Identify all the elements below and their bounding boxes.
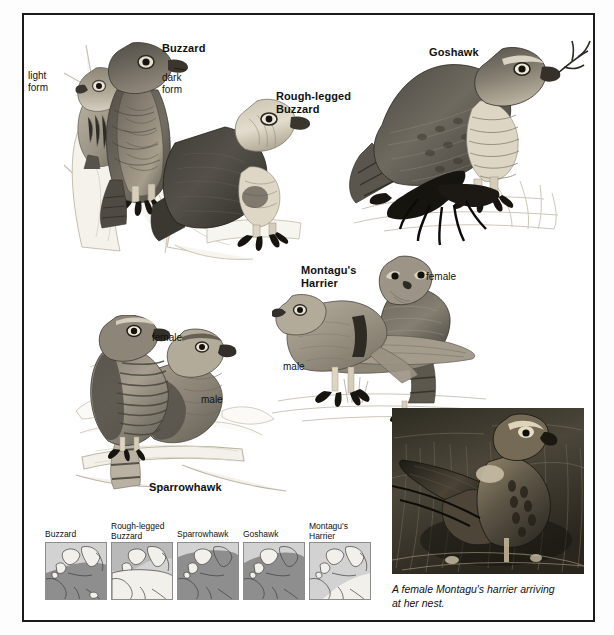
label-buzzard-title: Buzzard	[162, 42, 205, 55]
map-label-rough-legged: Rough-legged Buzzard	[111, 521, 164, 541]
label-goshawk-title: Goshawk	[429, 46, 479, 59]
label-light-form: light form	[28, 70, 48, 93]
label-harrier-male: male	[283, 361, 305, 373]
illustration-page: Buzzard light form dark form Rough-legge…	[0, 0, 614, 635]
photo-caption: A female Montagu's harrier arriving at h…	[392, 582, 587, 610]
label-dark-form: dark form	[162, 72, 182, 95]
map-label-sparrowhawk: Sparrowhawk	[177, 529, 229, 539]
label-rough-legged-title: Rough-legged Buzzard	[276, 90, 351, 115]
goshawk-group	[344, 33, 594, 253]
label-montagus-title: Montagu's Harrier	[301, 264, 356, 289]
label-harrier-female: female	[426, 271, 456, 283]
map-label-buzzard: Buzzard	[45, 529, 76, 539]
map-buzzard	[45, 542, 107, 600]
label-sparrowhawk-female: female	[152, 332, 182, 344]
map-sparrowhawk	[177, 542, 239, 600]
map-rough-legged-buzzard	[111, 542, 173, 600]
map-goshawk	[243, 542, 305, 600]
illustration-plate: Buzzard light form dark form Rough-legge…	[22, 13, 595, 622]
map-label-goshawk: Goshawk	[243, 529, 278, 539]
map-label-montagus: Montagu's Harrier	[309, 521, 348, 541]
label-sparrowhawk-male: male	[201, 394, 223, 406]
montagus-harrier-photo	[392, 408, 584, 574]
map-montagus-harrier	[309, 542, 371, 600]
label-sparrowhawk-title: Sparrowhawk	[149, 481, 222, 494]
sparrowhawk-group	[72, 315, 292, 505]
